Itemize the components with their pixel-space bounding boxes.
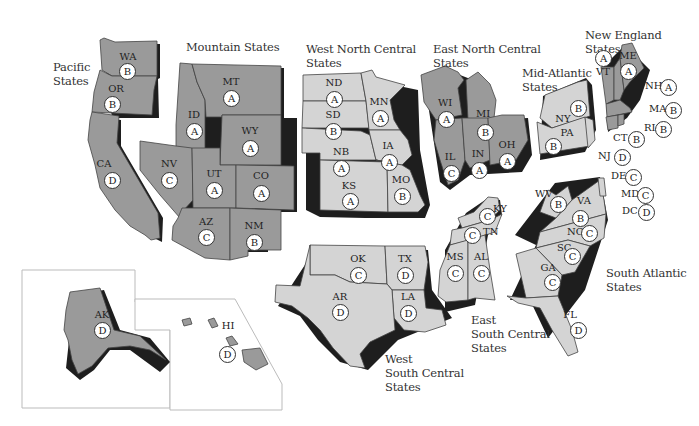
- grade-badge-ms[interactable]: C: [447, 265, 464, 282]
- grade-badge-sd[interactable]: B: [325, 123, 342, 140]
- grade-badge-oh[interactable]: A: [499, 153, 516, 170]
- state-label-fl: FL: [555, 309, 585, 320]
- state-label-me: ME: [613, 50, 643, 61]
- state-label-id: ID: [179, 109, 209, 120]
- grade-badge-in[interactable]: A: [471, 162, 488, 179]
- grade-badge-nj[interactable]: D: [614, 149, 631, 166]
- state-label-al: AL: [466, 251, 496, 262]
- state-label-ok: OK: [343, 253, 373, 264]
- grade-badge-ca[interactable]: D: [104, 172, 121, 189]
- state-label-ia: IA: [373, 140, 403, 151]
- grade-badge-ky[interactable]: C: [479, 208, 496, 225]
- state-label-mt: MT: [216, 76, 246, 87]
- region-label-mountain: Mountain States: [186, 40, 279, 54]
- grade-badge-ri[interactable]: B: [655, 121, 672, 138]
- grade-badge-wy[interactable]: A: [242, 140, 259, 157]
- grade-badge-fl[interactable]: D: [570, 322, 587, 339]
- state-label-wi: WI: [430, 97, 460, 108]
- grade-badge-hi[interactable]: D: [219, 346, 236, 363]
- region-label-south-atlantic: South Atlantic States: [606, 266, 687, 294]
- state-label-az: AZ: [191, 216, 221, 227]
- grade-badge-me[interactable]: A: [620, 63, 637, 80]
- state-label-il: IL: [435, 151, 465, 162]
- grade-badge-ut[interactable]: A: [206, 182, 223, 199]
- grade-badge-md[interactable]: C: [637, 187, 654, 204]
- state-label-hi: HI: [213, 320, 243, 331]
- inset-frames: [22, 270, 282, 410]
- state-label-dc: DC: [622, 205, 638, 217]
- state-label-mi: MI: [468, 108, 498, 119]
- state-label-ri: RI: [644, 122, 655, 134]
- grade-badge-al[interactable]: C: [473, 265, 490, 282]
- state-label-la: LA: [393, 291, 423, 302]
- grade-badge-ny[interactable]: B: [570, 100, 587, 117]
- state-ri: [618, 114, 624, 126]
- region-label-west-south-central: West South Central States: [385, 352, 464, 394]
- state-label-ga: GA: [533, 262, 563, 273]
- region-label-pacific: Pacific States: [53, 60, 90, 88]
- state-label-ca: CA: [89, 158, 119, 169]
- state-label-ak: AK: [87, 309, 117, 320]
- state-label-ct: CT: [613, 132, 627, 144]
- state-label-wy: WY: [235, 125, 265, 136]
- grade-badge-sc[interactable]: C: [564, 248, 581, 265]
- state-label-ks: KS: [334, 180, 364, 191]
- state-label-co: CO: [246, 170, 276, 181]
- grade-badge-wv[interactable]: B: [550, 196, 567, 213]
- region-label-west-north-central: West North Central States: [306, 42, 416, 70]
- grade-badge-pa[interactable]: B: [545, 138, 562, 155]
- state-label-vt: VT: [588, 66, 618, 77]
- grade-badge-ia[interactable]: A: [381, 154, 398, 171]
- region-label-mid-atlantic: Mid-Atlantic States: [522, 66, 592, 94]
- grade-badge-mn[interactable]: A: [372, 110, 389, 127]
- state-label-in: IN: [463, 148, 493, 159]
- grade-badge-nc[interactable]: C: [581, 225, 598, 242]
- state-label-pa: PA: [552, 127, 582, 138]
- grade-badge-nb[interactable]: A: [333, 160, 350, 177]
- grade-badge-ar[interactable]: D: [397, 267, 414, 284]
- grade-badge-nh[interactable]: A: [660, 79, 677, 96]
- state-label-tn: TN: [483, 226, 498, 238]
- grade-badge-tx[interactable]: D: [332, 304, 349, 321]
- grade-badge-or[interactable]: B: [104, 96, 121, 113]
- state-label-va: VA: [569, 195, 599, 206]
- state-label-nj: NJ: [598, 150, 611, 162]
- grade-badge-ma[interactable]: B: [665, 102, 682, 119]
- grade-badge-de[interactable]: C: [625, 169, 642, 186]
- state-ct: [606, 115, 618, 130]
- state-label-nm: NM: [239, 220, 269, 231]
- state-label-wa: WA: [113, 51, 143, 62]
- grade-badge-id[interactable]: A: [186, 123, 203, 140]
- state-label-mo: MO: [386, 174, 416, 185]
- state-label-nv: NV: [154, 158, 184, 169]
- grade-badge-wa[interactable]: B: [119, 63, 136, 80]
- grade-badge-ct[interactable]: B: [628, 131, 645, 148]
- grade-badge-ok[interactable]: C: [350, 267, 367, 284]
- state-label-ut: UT: [199, 168, 229, 179]
- grade-badge-ks[interactable]: A: [342, 193, 359, 210]
- state-label-mn: MN: [364, 96, 394, 107]
- state-label-or: OR: [101, 83, 131, 94]
- state-label-tx: AR: [325, 291, 355, 302]
- grade-badge-mt[interactable]: A: [223, 90, 240, 107]
- grade-badge-mo[interactable]: B: [394, 188, 411, 205]
- grade-badge-az[interactable]: C: [198, 229, 215, 246]
- grade-badge-wi[interactable]: A: [438, 111, 455, 128]
- grade-badge-nd[interactable]: A: [326, 91, 343, 108]
- grade-badge-ga[interactable]: C: [544, 274, 561, 291]
- grade-badge-co[interactable]: A: [253, 185, 270, 202]
- state-label-wv: WV: [535, 188, 553, 200]
- grade-badge-tn[interactable]: C: [464, 227, 481, 244]
- grade-badge-nm[interactable]: B: [246, 234, 263, 251]
- grade-badge-il[interactable]: C: [443, 165, 460, 182]
- grade-badge-la[interactable]: D: [400, 305, 417, 322]
- state-label-nd: ND: [319, 77, 349, 88]
- grade-badge-vt[interactable]: A: [595, 50, 612, 67]
- state-label-ma: MA: [649, 103, 666, 115]
- grade-badge-ak[interactable]: D: [94, 322, 111, 339]
- state-label-sd: SD: [318, 109, 348, 120]
- grade-badge-nv[interactable]: C: [161, 172, 178, 189]
- grade-badge-dc[interactable]: D: [638, 204, 655, 221]
- state-label-ar: TX: [390, 253, 420, 264]
- state-label-nb: NB: [326, 146, 356, 157]
